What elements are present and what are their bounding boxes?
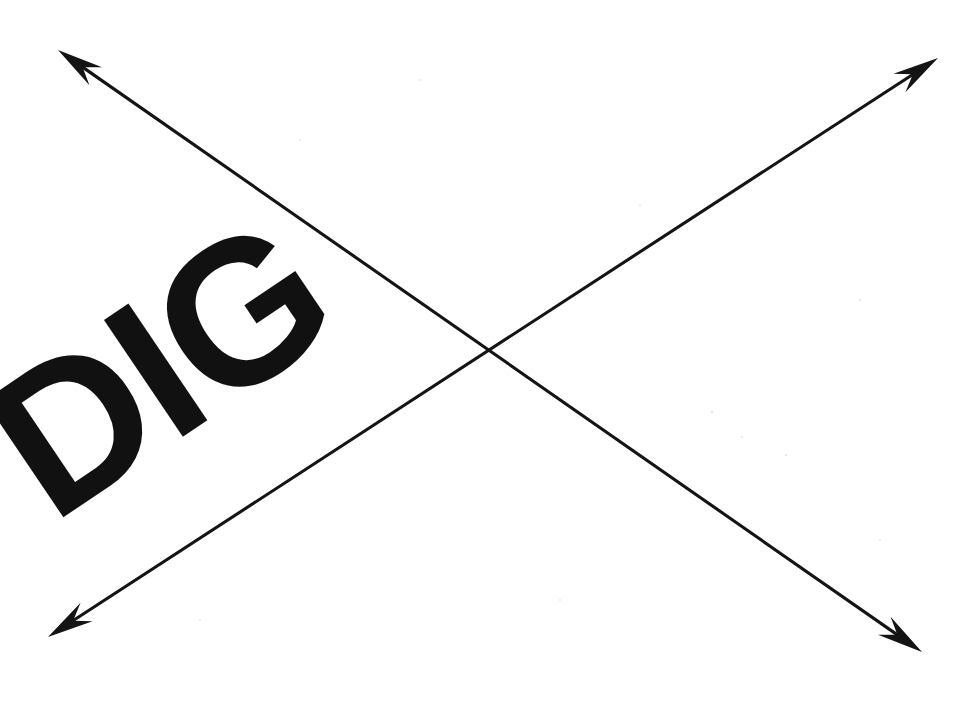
scan-speck (879, 539, 881, 541)
scan-speck (785, 454, 787, 456)
scan-speck (559, 599, 561, 601)
scan-speck (199, 619, 201, 621)
scan-speck (299, 139, 301, 141)
scan-speck (419, 79, 421, 81)
figure-canvas: DIG (0, 0, 961, 708)
diagram-svg: DIG (0, 0, 961, 708)
scan-speck (639, 204, 641, 206)
scan-speck (859, 299, 861, 301)
scan-speck (711, 411, 714, 414)
scan-speck (741, 436, 743, 438)
